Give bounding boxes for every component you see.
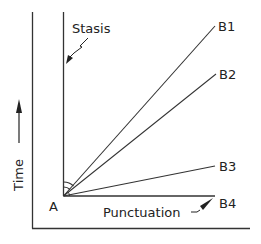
branch-b4-label: B4 [219, 196, 236, 211]
angle-arc-inner [64, 187, 71, 190]
branch-b1-label: B1 [218, 19, 235, 34]
branch-b2-label: B2 [219, 67, 236, 82]
punctuation-pointer-arrow-icon [191, 198, 213, 212]
time-arrow-head-icon [16, 99, 22, 113]
origin-label-a: A [49, 199, 58, 214]
stasis-pointer-arrow-icon [66, 38, 88, 64]
branch-b3-label: B3 [219, 159, 236, 174]
stasis-punctuation-diagram: Time A Stasis B1 B2 B3 B4 Punctuation [0, 0, 261, 244]
time-label: Time [11, 159, 26, 192]
punctuation-label: Punctuation [103, 205, 180, 220]
angle-arc-outer [64, 182, 74, 186]
branch-b2-line [64, 74, 217, 196]
time-axis-label-group: Time [11, 99, 26, 192]
stasis-label: Stasis [72, 21, 111, 36]
